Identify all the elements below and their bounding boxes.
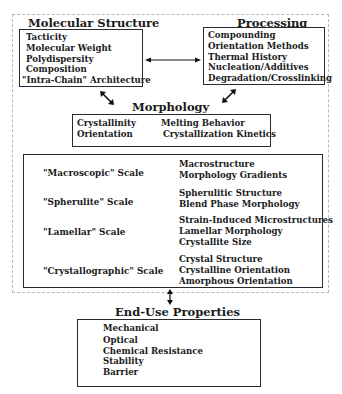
end-use-box: Mechanical Optical Chemical Resistance S…	[77, 319, 261, 387]
list-item: Stability	[103, 356, 260, 367]
list-item: "Intra-Chain" Architecture	[22, 75, 142, 86]
list-item: Blend Phase Morphology	[179, 199, 300, 210]
end-use-title: End-Use Properties	[115, 305, 240, 319]
list-item: Spherulitic Structure	[179, 188, 300, 199]
double-arrow-icon	[100, 91, 114, 105]
scale-items: Crystal Structure Crystalline Orientatio…	[179, 254, 293, 286]
list-item: Composition	[26, 64, 142, 75]
molecular-structure-box: Tacticity Molecular Weight Polydispersit…	[19, 29, 143, 87]
list-item: Molecular Weight	[26, 43, 142, 54]
morphology-title: Morphology	[132, 100, 209, 114]
molecular-structure-title: Molecular Structure	[28, 16, 159, 30]
scale-items: Macrostructure Morphology Gradients	[179, 159, 287, 181]
list-item: Macrostructure	[179, 159, 287, 170]
list-item: Optical	[103, 335, 260, 346]
list-item: Tacticity	[26, 32, 142, 43]
morphology-box: Crystallinity Orientation Melting Behavi…	[72, 114, 271, 147]
list-item: Amorphous Orientation	[179, 276, 293, 287]
scale-items: Spherulitic Structure Blend Phase Morpho…	[179, 188, 300, 210]
list-item: Crystallization Kinetics	[163, 129, 276, 140]
double-arrow-icon	[166, 289, 174, 305]
list-item: Lamellar Morphology	[179, 226, 333, 237]
scale-label: "Crystallographic" Scale	[43, 266, 163, 276]
scale-label: "Macroscopic" Scale	[43, 168, 144, 178]
list-item: Degradation/Crosslinking	[208, 73, 324, 84]
list-item: Thermal History	[208, 52, 324, 63]
scale-label: "Spherulite" Scale	[43, 197, 133, 207]
list-item: Polydispersity	[26, 54, 142, 65]
list-item: Orientation	[77, 129, 136, 140]
list-item: Barrier	[103, 367, 260, 378]
double-arrow-icon	[145, 56, 201, 66]
list-item: Morphology Gradients	[179, 170, 287, 181]
list-item: Strain-Induced Microstructures	[179, 215, 333, 226]
list-item: Nucleation/Additives	[208, 62, 324, 73]
list-item: Crystalline Orientation	[179, 265, 293, 276]
processing-box: Compounding Orientation Methods Thermal …	[203, 27, 325, 85]
list-item: Crystallinity	[77, 118, 136, 129]
scale-items: Strain-Induced Microstructures Lamellar …	[179, 215, 333, 247]
list-item: Orientation Methods	[208, 41, 324, 52]
list-item: Mechanical	[103, 323, 260, 334]
list-item: Melting Behavior	[161, 118, 276, 129]
list-item: Chemical Resistance	[103, 346, 260, 357]
list-item: Compounding	[208, 30, 324, 41]
list-item: Crystallite Size	[179, 237, 333, 248]
scale-label: "Lamellar" Scale	[43, 227, 125, 237]
list-item: Crystal Structure	[179, 254, 293, 265]
double-arrow-icon	[222, 89, 236, 103]
